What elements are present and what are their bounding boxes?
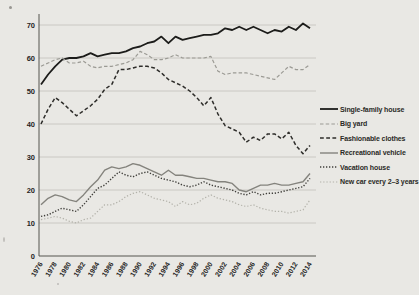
legend-label: Vacation house [340,164,390,171]
legend-label: Recreational vehicle [340,149,406,156]
x-tick-label: 2008 [256,261,270,278]
scan-speck [57,283,59,285]
legend-line-sample [320,105,338,113]
x-tick-label: 1982 [72,261,86,278]
x-tick-label: 2006 [242,261,256,278]
legend-item-big-yard: Big yard [320,120,419,129]
y-tick-label: 50 [27,87,35,96]
legend-item-fashionable-clothes: Fashionable clothes [320,134,419,143]
x-tick-label: 1994 [157,261,171,278]
series-line-fashionable-clothes [41,66,310,153]
x-tick-label: 1984 [86,261,100,278]
chart-figure: 0102030405060701976197819801982198419861… [0,0,419,295]
x-tick-label: 1986 [100,261,114,278]
x-tick-label: 1976 [30,261,44,278]
legend-item-new-car: New car every 2–3 years [320,178,419,187]
legend-item-recreational-vehicle: Recreational vehicle [320,149,419,158]
y-tick-label: 70 [27,21,35,30]
x-tick-label: 1992 [143,261,157,278]
x-tick-label: 1998 [185,261,199,278]
y-tick-label: 10 [27,219,35,228]
chart-legend: Single-family house Big yard Fashionable… [320,105,419,186]
legend-line-sample [320,178,338,186]
legend-label: Single-family house [340,106,404,113]
x-tick-label: 1988 [115,261,129,278]
x-tick-label: 2000 [200,261,214,278]
x-tick-label: 1980 [58,261,72,278]
x-tick-label: 2014 [299,261,313,278]
scan-speck [9,6,12,9]
legend-label: Big yard [340,120,367,127]
legend-item-vacation-house: Vacation house [320,163,419,172]
legend-label: Fashionable clothes [340,135,405,142]
legend-label: New car every 2–3 years [340,178,419,185]
x-tick-label: 2010 [270,261,284,278]
series-line-recreational-vehicle [41,164,310,205]
x-tick-label: 2004 [228,261,242,278]
y-tick-label: 60 [27,54,35,63]
x-tick-label: 1978 [44,261,58,278]
legend-line-sample [320,149,338,157]
x-tick-label: 1996 [171,261,185,278]
series-line-single-family-house [41,23,310,84]
legend-item-single-family-house: Single-family house [320,105,419,114]
legend-line-sample [320,134,338,142]
series-line-big-yard [41,51,310,79]
y-tick-label: 30 [27,153,35,162]
x-tick-label: 2002 [214,261,228,278]
x-tick-label: 2012 [285,261,299,278]
y-tick-label: 20 [27,186,35,195]
y-tick-label: 0 [31,252,35,261]
y-tick-label: 40 [27,120,35,129]
legend-line-sample [320,120,338,128]
scan-speck [3,237,5,242]
legend-line-sample [320,163,338,171]
x-tick-label: 1990 [129,261,143,278]
